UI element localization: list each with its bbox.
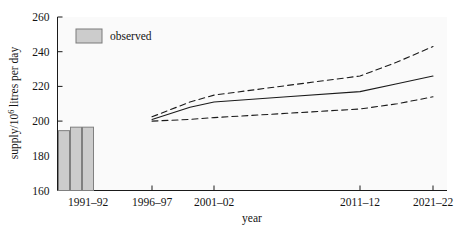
bar-1991-92 <box>83 127 94 190</box>
x-axis-title: year <box>242 212 262 225</box>
x-tick-label-2001-02: 2001–02 <box>194 196 235 208</box>
y-tick-label-260: 260 <box>32 11 50 23</box>
x-tick-label-1996-97: 1996–97 <box>132 196 173 208</box>
y-tick-label-160: 160 <box>32 185 50 197</box>
x-tick-label-1991-92: 1991–92 <box>68 196 109 208</box>
y-tick-label-220: 220 <box>32 80 50 92</box>
svg-text:supply/106 litres per day: supply/106 litres per day <box>7 47 21 160</box>
y-tick-label-240: 240 <box>32 46 50 58</box>
y-axis-title-suffix: litres per day <box>8 47 21 110</box>
x-tick-label-2021-22: 2021–22 <box>413 196 454 208</box>
x-tick-label-2011-12: 2011–12 <box>340 196 380 208</box>
bar-1990-91 <box>71 127 82 190</box>
chart-figure: 160180200220240260 1991–921996–972001–02… <box>0 0 459 234</box>
y-axis-title-prefix: supply/10 <box>8 114 21 160</box>
y-axis-title: supply/106 litres per day <box>7 47 21 160</box>
chart-canvas: 160180200220240260 1991–921996–972001–02… <box>0 0 459 234</box>
y-axis-tick-labels: 160180200220240260 <box>32 11 50 197</box>
plot-background <box>57 17 447 190</box>
bar-1989-90 <box>59 131 70 191</box>
observed-bars <box>59 127 94 190</box>
legend-swatch-observed <box>76 29 102 43</box>
y-tick-label-200: 200 <box>32 115 50 127</box>
y-tick-label-180: 180 <box>32 150 50 162</box>
x-axis-tick-labels: 1991–921996–972001–022011–122021–22 <box>68 196 454 208</box>
legend-label-observed: observed <box>110 30 152 42</box>
chart-legend: observed <box>76 29 152 43</box>
